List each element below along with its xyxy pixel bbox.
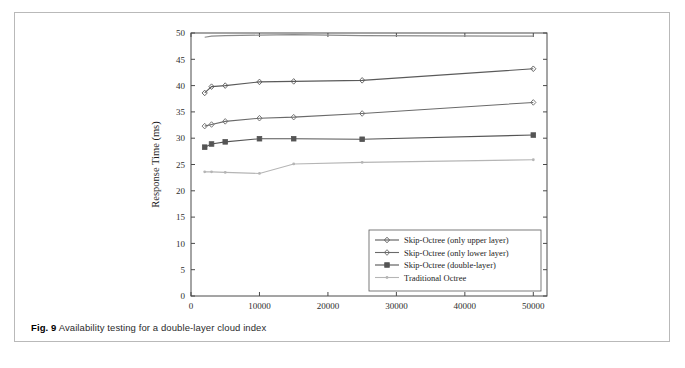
y-tick-label: 30 (176, 133, 186, 143)
series-0 (202, 66, 536, 96)
chart-legend: Skip-Octree (only upper layer)Skip-Octre… (369, 230, 541, 291)
x-tick-label: 50000 (522, 301, 545, 311)
x-tick-label: 30000 (385, 301, 408, 311)
figure-frame: 0510152025303540455001000020000300004000… (14, 12, 670, 342)
y-tick-label: 45 (176, 55, 186, 65)
x-tick-label: 20000 (317, 301, 340, 311)
y-tick-label: 10 (176, 239, 186, 249)
y-tick-label: 25 (176, 160, 186, 170)
x-tick-label: 40000 (454, 301, 477, 311)
y-tick-label: 0 (181, 291, 186, 301)
series-2 (202, 133, 535, 150)
figure-caption-text: Availability testing for a double-layer … (59, 322, 267, 333)
y-tick-label: 5 (181, 265, 186, 275)
y-tick-label: 40 (176, 81, 186, 91)
figure-caption-label: Fig. 9 (31, 322, 56, 333)
legend-entry-label: Skip-Octree (only lower layer) (404, 248, 509, 258)
figure-caption: Fig. 9 Availability testing for a double… (31, 322, 266, 333)
y-axis-title: Response Time (ms) (150, 121, 162, 208)
chart-axis-titles: Amount of dataResponse Time (ms) (150, 121, 402, 313)
legend-entry-label: Skip-Octree (double-layer) (404, 260, 496, 270)
x-tick-label: 0 (189, 301, 194, 311)
legend-entry-label: Skip-Octree (only upper layer) (404, 235, 509, 245)
series-4 (205, 35, 534, 38)
line-chart: 0510152025303540455001000020000300004000… (15, 13, 671, 313)
x-tick-label: 10000 (248, 301, 271, 311)
legend-entry-label: Traditional Octree (404, 273, 466, 283)
series-1 (202, 100, 536, 129)
chart-canvas: 0510152025303540455001000020000300004000… (15, 13, 671, 313)
y-tick-label: 35 (176, 107, 186, 117)
y-tick-label: 15 (176, 212, 186, 222)
y-tick-label: 50 (176, 28, 186, 38)
chart-series (202, 35, 536, 175)
y-tick-label: 20 (176, 186, 186, 196)
series-3 (203, 158, 534, 174)
